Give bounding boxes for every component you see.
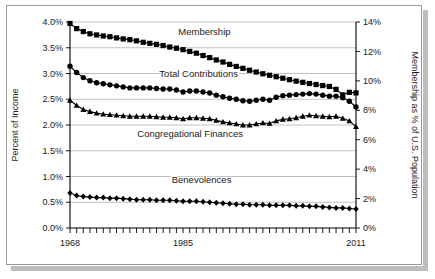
data-marker [293, 203, 298, 209]
series-annotation-total-contributions: Total Contributions [159, 68, 238, 79]
data-marker [247, 99, 252, 104]
data-marker [313, 82, 318, 87]
data-marker [87, 78, 92, 83]
data-marker [274, 74, 279, 79]
data-marker [273, 202, 278, 208]
data-marker [187, 49, 192, 54]
data-marker [147, 197, 152, 203]
data-marker [121, 84, 126, 89]
right-axis-tick-label: 12% [363, 47, 381, 57]
data-marker [114, 195, 119, 201]
data-marker [207, 199, 212, 205]
data-marker [300, 91, 305, 96]
data-marker [107, 34, 112, 39]
data-marker [300, 80, 305, 85]
data-marker [67, 21, 72, 26]
right-axis-tick-label: 10% [363, 76, 381, 86]
data-marker [154, 42, 159, 47]
left-axis-tick-label: 4.0% [42, 17, 63, 27]
series-benevolences [67, 190, 358, 212]
data-marker [294, 79, 299, 84]
data-marker [127, 196, 132, 202]
data-marker [127, 37, 132, 42]
data-marker [74, 193, 79, 199]
data-marker [307, 203, 312, 209]
data-marker [87, 194, 92, 200]
data-marker [327, 204, 332, 210]
data-marker [287, 77, 292, 82]
data-marker [101, 195, 106, 201]
data-marker [74, 26, 79, 31]
data-marker [347, 99, 352, 104]
series-line [70, 193, 356, 209]
data-marker [260, 71, 265, 76]
left-axis-tick-label: 3.5% [42, 43, 63, 53]
data-marker [121, 196, 126, 202]
data-marker [200, 53, 205, 58]
left-axis-tick-label: 1.5% [42, 146, 63, 156]
data-marker [67, 190, 72, 196]
data-marker [107, 82, 112, 87]
data-marker [247, 68, 252, 73]
data-marker [353, 206, 358, 212]
data-marker [313, 203, 318, 209]
data-marker [81, 75, 86, 80]
data-marker [147, 85, 152, 90]
data-marker [227, 62, 232, 67]
series-annotation-membership: Membership [178, 26, 230, 37]
right-axis-tick-label: 6% [363, 135, 376, 145]
data-marker [320, 92, 325, 97]
series-annotation-benevolences: Benevolences [172, 174, 232, 185]
data-marker [67, 64, 72, 69]
data-marker [107, 195, 112, 201]
data-marker [127, 85, 132, 90]
data-marker [247, 202, 252, 208]
data-marker [267, 98, 272, 103]
data-marker [280, 93, 285, 98]
data-marker [194, 88, 199, 93]
data-marker [214, 57, 219, 62]
data-marker [207, 90, 212, 95]
left-axis-tick-label: 2.5% [42, 94, 63, 104]
data-marker [134, 197, 139, 203]
data-marker [353, 104, 358, 109]
data-marker [87, 31, 92, 36]
data-marker [167, 86, 172, 91]
data-marker [227, 201, 232, 207]
data-marker [114, 83, 119, 88]
data-marker [333, 93, 338, 98]
data-marker [347, 205, 352, 211]
data-marker [74, 70, 79, 75]
data-marker [187, 88, 192, 93]
data-marker [180, 89, 185, 94]
data-marker [260, 97, 265, 102]
data-marker [287, 202, 292, 208]
data-marker [180, 47, 185, 52]
data-marker [254, 69, 259, 74]
data-marker [81, 29, 86, 34]
data-marker [214, 200, 219, 206]
data-marker [80, 107, 86, 112]
data-marker [333, 87, 338, 92]
data-marker [180, 198, 185, 204]
data-marker [67, 97, 73, 102]
data-marker [101, 33, 106, 38]
data-marker [154, 86, 159, 91]
data-marker [101, 81, 106, 86]
left-axis-tick-label: 0.0% [42, 223, 63, 233]
left-axis-tick-label: 1.0% [42, 172, 63, 182]
data-marker [187, 198, 192, 204]
right-axis-tick-label: 0% [363, 223, 376, 233]
data-marker [280, 76, 285, 81]
series-congregational-finances [67, 97, 359, 129]
data-marker [200, 89, 205, 94]
data-marker [194, 198, 199, 204]
data-marker [207, 55, 212, 60]
data-marker [94, 195, 99, 201]
data-marker [327, 84, 332, 89]
data-marker [340, 205, 345, 211]
data-marker [234, 97, 239, 102]
x-axis-tick-label: 1968 [60, 238, 80, 248]
data-marker [141, 40, 146, 45]
data-marker [267, 73, 272, 78]
